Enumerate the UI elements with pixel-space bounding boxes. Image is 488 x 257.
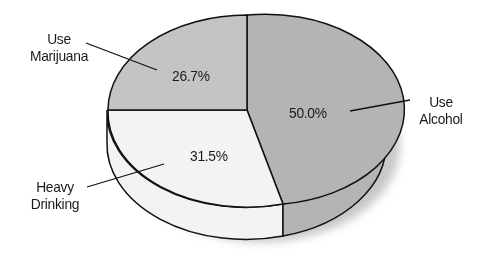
label-line: Alcohol	[409, 110, 473, 127]
label-line: Drinking	[25, 195, 86, 212]
label-line: Use	[409, 93, 473, 110]
pie-chart: Use Marijuana Use Alcohol Heavy Drinking…	[0, 0, 488, 257]
label-heavy-drinking: Heavy Drinking	[25, 178, 86, 212]
label-line: Heavy	[25, 178, 86, 195]
value-heavy-drinking: 31.5%	[190, 147, 228, 164]
label-use-marijuana: Use Marijuana	[21, 30, 96, 64]
value-use-alcohol: 50.0%	[289, 104, 327, 121]
value-use-marijuana: 26.7%	[172, 67, 210, 84]
label-line: Marijuana	[21, 47, 96, 64]
label-use-alcohol: Use Alcohol	[409, 93, 473, 127]
slice-use-marijuana	[108, 15, 247, 110]
label-line: Use	[21, 30, 96, 47]
